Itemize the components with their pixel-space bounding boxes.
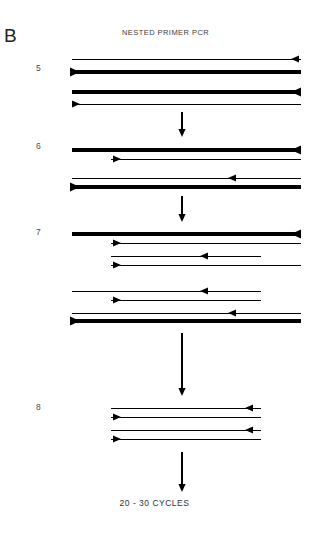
primer-arrowhead-right <box>113 414 121 421</box>
primer-arrowhead-left <box>228 175 236 182</box>
diagram-canvas <box>0 0 309 537</box>
primer-arrowhead-left <box>245 427 253 434</box>
cycles-annotation: 20 - 30 CYCLES <box>0 498 309 508</box>
primer-arrowhead-left <box>200 253 208 260</box>
flow-arrow-group <box>178 112 185 492</box>
step-number-5: 5 <box>36 64 41 73</box>
primer-arrowhead-right <box>113 240 121 247</box>
primer-arrowhead-left <box>291 229 301 238</box>
arrow-8-to-cycles-head <box>178 484 185 492</box>
arrow-7-to-8-head <box>178 388 185 396</box>
primer-arrowhead-left <box>291 56 299 63</box>
primer-arrowhead-right <box>70 316 80 325</box>
step-number-6: 6 <box>36 142 41 151</box>
primer-arrowhead-right <box>113 262 121 269</box>
primer-arrowhead-left <box>200 288 208 295</box>
primer-arrowhead-right <box>113 436 121 443</box>
primer-arrowhead-right <box>72 101 80 108</box>
primer-arrowhead-left <box>228 310 236 317</box>
primer-arrowhead-right <box>70 67 80 76</box>
primer-arrowhead-right <box>113 156 121 163</box>
step-number-8: 8 <box>36 403 41 412</box>
strand-group <box>70 56 301 443</box>
primer-arrowhead-right <box>70 182 80 191</box>
primer-arrowhead-left <box>291 145 301 154</box>
primer-arrowhead-right <box>113 297 121 304</box>
nested-primer-pcr-figure: B NESTED PRIMER PCR 5678 20 - 30 CYCLES <box>0 0 309 537</box>
step-number-7: 7 <box>36 228 41 237</box>
primer-arrowhead-left <box>291 87 301 96</box>
primer-arrowhead-left <box>245 405 253 412</box>
arrow-5-to-6-head <box>178 129 185 137</box>
arrow-6-to-7-head <box>178 214 185 222</box>
